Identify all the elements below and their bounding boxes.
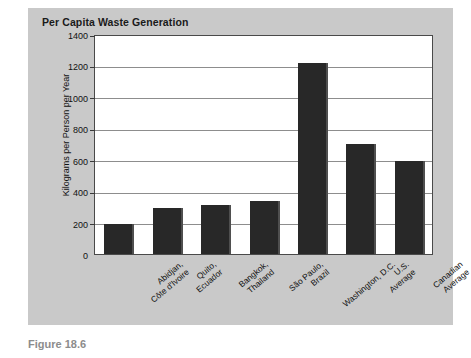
y-tick-label: 1000	[68, 94, 88, 104]
y-tick-label: 1200	[68, 62, 88, 72]
bar	[201, 205, 231, 255]
figure-panel: Per Capita Waste Generation Kilograms pe…	[28, 8, 453, 325]
gridline	[95, 67, 432, 68]
bar	[104, 224, 134, 254]
x-axis-label: São Paulo,Brazil	[287, 260, 331, 301]
bar	[250, 201, 280, 254]
bar	[298, 63, 328, 254]
gridline	[95, 130, 432, 131]
bar	[395, 161, 425, 254]
y-tick-label: 1400	[68, 31, 88, 41]
gridline	[95, 193, 432, 194]
y-tick-mark	[90, 98, 95, 99]
chart-title: Per Capita Waste Generation	[42, 16, 188, 28]
y-tick-mark	[90, 130, 95, 131]
x-axis-label: Bangkok,Thailand	[237, 260, 276, 297]
y-tick-label: 400	[73, 188, 88, 198]
y-tick-label: 0	[83, 251, 88, 261]
y-tick-mark	[90, 193, 95, 194]
x-axis-label: CanadianAverage	[431, 260, 471, 298]
x-axis-label: Quito,Ecuador	[188, 260, 224, 295]
y-tick-label: 800	[73, 125, 88, 135]
plot-area: 1400120010008006004002000	[94, 35, 433, 255]
x-axis-label: Abidjan,Côte d'Ivoire	[143, 260, 191, 305]
bar	[346, 144, 376, 254]
gridline	[95, 161, 432, 162]
y-tick-mark	[90, 161, 95, 162]
y-tick-label: 200	[73, 220, 88, 230]
y-tick-mark	[90, 36, 95, 37]
bar	[153, 208, 183, 254]
figure-caption: Figure 18.6	[28, 338, 178, 352]
y-tick-mark	[90, 67, 95, 68]
y-tick-mark	[90, 224, 95, 225]
y-tick-label: 600	[73, 157, 88, 167]
gridline	[95, 98, 432, 99]
